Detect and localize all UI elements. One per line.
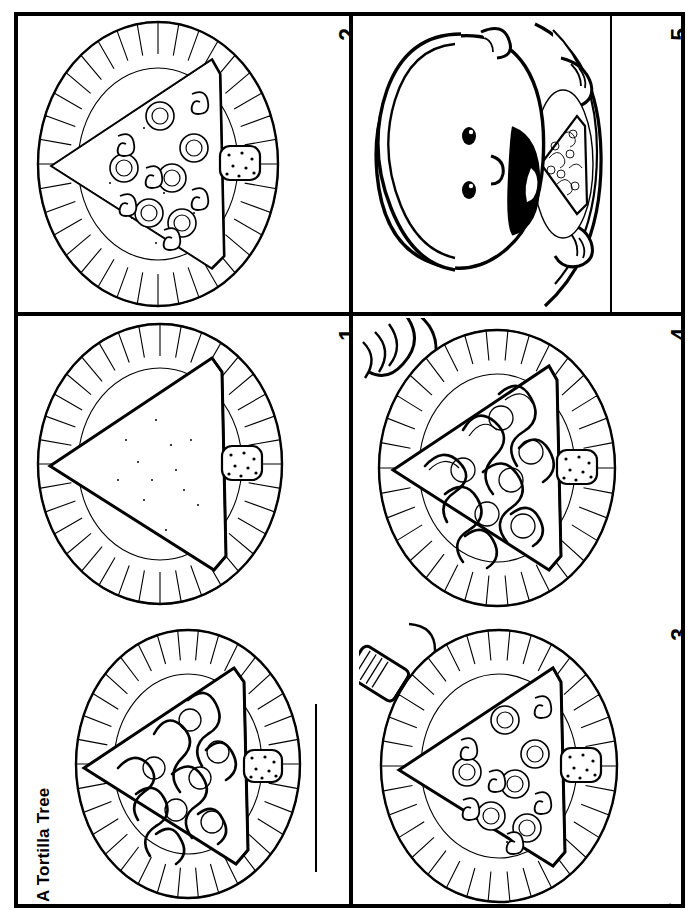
panel-number-2: 2 (335, 28, 349, 41)
panel-step-1: 1 Put a tree on your plate. Add a trunk. (18, 316, 349, 612)
panel-number-1: 1 (335, 328, 349, 341)
name-write-line[interactable] (315, 704, 317, 872)
panel-number-5: 5 (667, 28, 681, 41)
booklet-frame: 2 Add ornaments. (14, 12, 685, 908)
illustration-plate-ornaments (24, 18, 292, 310)
panel-caption-5: Taste your tree! (677, 134, 681, 268)
illustration-plate-tinsel (359, 318, 627, 610)
illustration-cover-tree (64, 624, 312, 902)
panel-caption-4: Add tinsel. (677, 424, 681, 515)
panel-cover: A Tortilla Tree Name ©2002 The Education… (18, 616, 349, 908)
panel-step-5: 5 Taste your tree! (353, 16, 681, 312)
scan-header-title: A Tortilla Tree (590, 0, 693, 3)
panel-step-4: 4 Add tinsel. (353, 316, 681, 612)
panel-caption-2: Add ornaments. (345, 134, 349, 271)
panel-number-3: 3 (667, 628, 681, 641)
panel-number-4: 4 (667, 328, 681, 341)
illustration-plate-garland (359, 618, 627, 906)
illustration-plate-plain (26, 320, 294, 608)
illustration-child-tasting (365, 18, 609, 310)
panel-caption-3: Add garland. (653, 902, 677, 908)
panel-step-3: 3 Add garland. (353, 616, 681, 908)
worksheet-page: A Tortilla Tree 2 Add ornaments. (0, 0, 699, 920)
booklet-title: A Tortilla Tree (34, 788, 54, 902)
panel-step-2: 2 Add ornaments. (18, 16, 349, 312)
